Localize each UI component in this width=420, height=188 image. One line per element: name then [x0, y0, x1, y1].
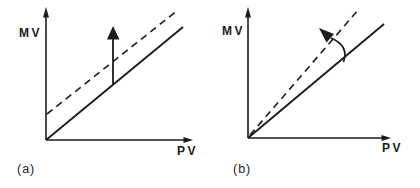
panel-b-y-axis-label: MV	[222, 24, 245, 38]
panel-a-y-axis-arrowhead	[43, 7, 49, 18]
panel-b-x-axis-label: PV	[382, 141, 403, 155]
panel-a-solid-line	[46, 27, 183, 140]
figure: MV PV (a) MV PV (b)	[0, 0, 420, 188]
panel-a-caption: (a)	[17, 162, 35, 176]
panel-a-x-axis-label: PV	[177, 144, 198, 158]
panel-b-solid-line	[248, 24, 384, 138]
panel-a-x-axis-arrowhead	[184, 137, 194, 143]
panel-b-caption: (b)	[233, 162, 251, 176]
panel-a-shift-arrow-arrowhead	[107, 26, 120, 40]
panel-a: MV PV (a)	[17, 7, 198, 176]
panel-b-y-axis-arrowhead	[245, 7, 251, 18]
panel-b-dashed-line	[250, 9, 359, 135]
panel-a-y-axis-label: MV	[19, 26, 42, 40]
figure-canvas: MV PV (a) MV PV (b)	[0, 0, 420, 188]
panel-b: MV PV (b)	[222, 7, 403, 176]
